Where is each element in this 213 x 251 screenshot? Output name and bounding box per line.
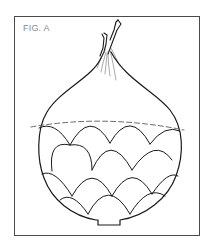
cut-line xyxy=(31,121,184,130)
onion-bulb-outline xyxy=(39,52,182,225)
onion-illustration xyxy=(0,0,213,251)
